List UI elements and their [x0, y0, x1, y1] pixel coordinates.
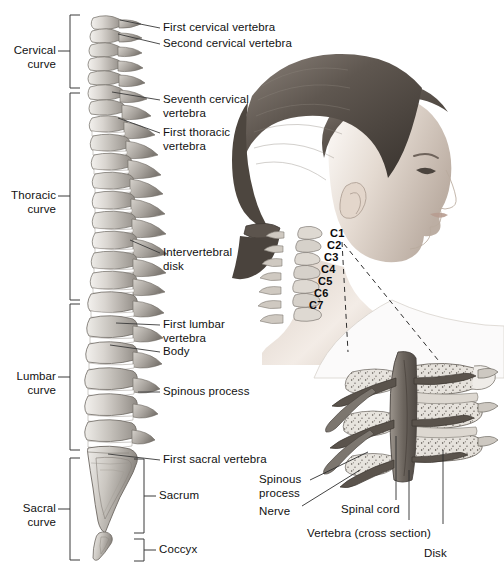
label-c5: C5: [318, 276, 332, 287]
bracket-cervical: [58, 15, 80, 88]
label-second-cervical-vertebra: Second cervical vertebra: [163, 37, 292, 51]
label-intervertebral-disk: Intervertebral disk: [163, 246, 232, 273]
label-sacrum: Sacrum: [159, 489, 199, 503]
curve-brackets: [58, 15, 80, 560]
bracket-label-cervical-curve: Cervical curve: [2, 44, 56, 71]
label-c4: C4: [321, 264, 335, 275]
region-brackets: [134, 459, 156, 561]
figure-canvas: [0, 0, 504, 568]
bracket-label-sacral-curve: Sacral curve: [2, 502, 56, 529]
bracket-sacral: [58, 458, 80, 560]
label-c1: C1: [330, 228, 344, 239]
bracket-label-thoracic-curve: Thoracic curve: [2, 189, 56, 216]
label-disk: Disk: [424, 547, 447, 561]
label-spinous-process: Spinous process: [163, 385, 250, 399]
label-spinal-cord: Spinal cord: [341, 503, 400, 517]
label-c6: C6: [314, 288, 328, 299]
label-vertebra-cross-section: Vertebra (cross section): [307, 527, 431, 541]
label-c7: C7: [309, 300, 323, 311]
vertebral-column-illustration: [85, 16, 167, 561]
bracket-sacrum: [134, 459, 156, 533]
bracket-thoracic: [58, 93, 80, 300]
label-first-sacral-vertebra: First sacral vertebra: [163, 453, 267, 467]
label-c2: C2: [327, 240, 341, 251]
anatomy-figure: Cervical curve Thoracic curve Lumbar cur…: [0, 0, 504, 568]
lumbar-vertebrae-group: [85, 292, 164, 449]
bracket-lumbar: [58, 304, 80, 450]
label-first-lumbar-vertebra: First lumbar vertebra: [163, 318, 225, 345]
label-spinous-process-cross-section: Spinous process: [259, 473, 301, 500]
label-first-thoracic-vertebra: First thoracic vertebra: [163, 126, 230, 153]
label-coccyx: Coccyx: [159, 543, 197, 557]
bracket-coccyx: [134, 539, 156, 561]
label-nerve: Nerve: [259, 505, 290, 519]
label-c3: C3: [324, 252, 338, 263]
sacrum-coccyx-group: [88, 446, 138, 560]
label-seventh-cervical-vertebra: Seventh cervical vertebra: [163, 93, 249, 120]
label-first-cervical-vertebra: First cervical vertebra: [163, 21, 275, 35]
bracket-label-lumbar-curve: Lumbar curve: [2, 370, 56, 397]
head-neck-illustration: [232, 54, 504, 378]
label-body: Body: [163, 345, 190, 359]
cervical-vertebrae-group: [88, 16, 151, 120]
thoracic-vertebrae-group: [89, 116, 167, 296]
